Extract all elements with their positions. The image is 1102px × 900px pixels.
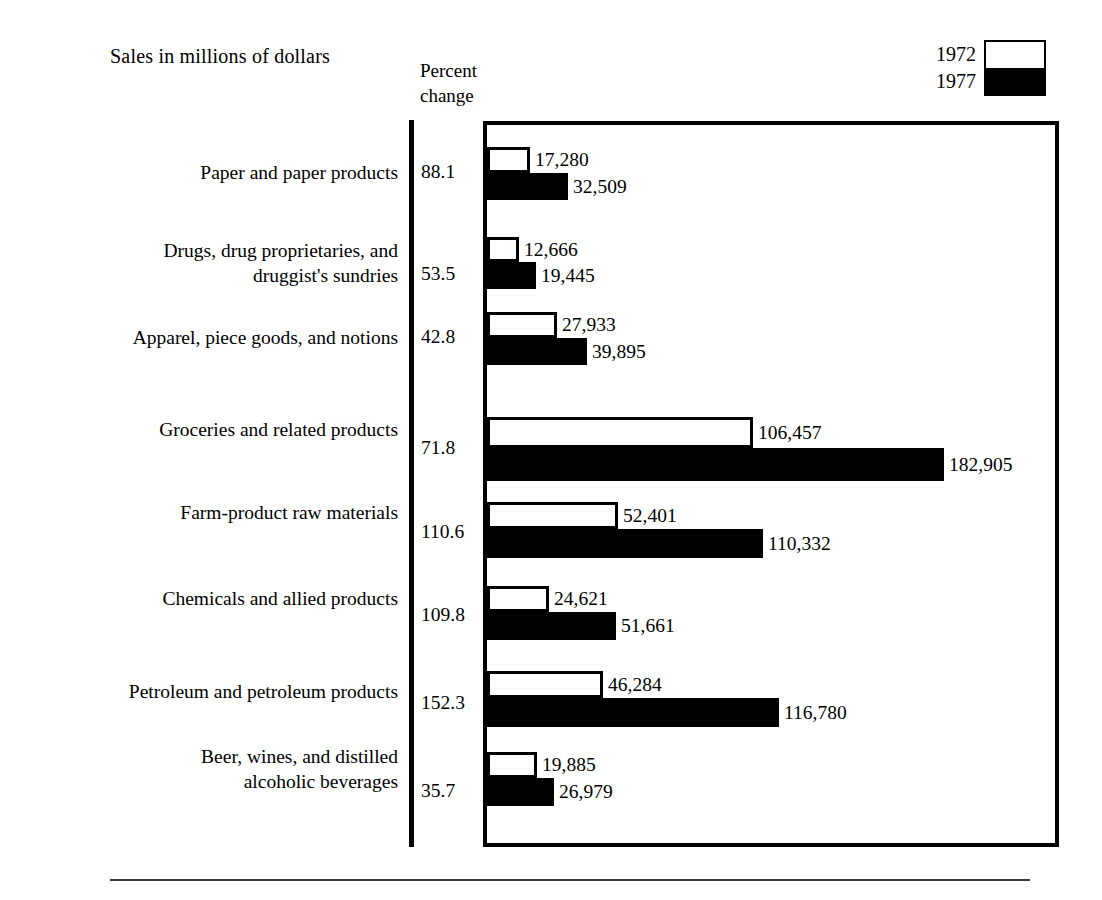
bar-value-label-1977: 32,509 xyxy=(568,177,627,197)
row-category-label: Paper and paper products xyxy=(68,160,398,185)
bar-value-label-1972: 52,401 xyxy=(618,506,677,526)
bar-group-1972: 46,284 xyxy=(487,671,662,698)
bar-group-1977: 51,661 xyxy=(487,612,675,640)
bar-value-label-1972: 106,457 xyxy=(753,423,821,443)
legend-labels: 1972 1977 xyxy=(936,40,984,95)
page-title: Sales in millions of dollars xyxy=(110,45,330,68)
legend-swatch-1977 xyxy=(986,68,1044,94)
bar-value-label-1972: 17,280 xyxy=(530,150,589,170)
bar-1972[interactable] xyxy=(487,417,753,448)
bar-value-label-1972: 27,933 xyxy=(557,315,616,335)
row-category-label: Drugs, drug proprietaries, and druggist'… xyxy=(68,238,398,288)
legend: 1972 1977 xyxy=(936,40,1046,96)
bar-group-1972: 106,457 xyxy=(487,417,821,448)
row-percent-change: 88.1 xyxy=(421,161,481,183)
percent-header-line-1: Percent xyxy=(420,58,477,83)
row-percent-change: 53.5 xyxy=(421,263,481,285)
bar-1972[interactable] xyxy=(487,502,618,529)
bar-1977[interactable] xyxy=(487,529,763,558)
legend-swatches xyxy=(984,40,1046,96)
label-column-divider xyxy=(409,120,414,847)
bar-value-label-1977: 110,332 xyxy=(763,534,831,554)
percent-change-column-header: Percent change xyxy=(420,58,477,108)
footer-rule xyxy=(110,879,1030,881)
bar-value-label-1972: 19,885 xyxy=(537,755,596,775)
bar-1972[interactable] xyxy=(487,671,603,698)
bar-value-label-1972: 46,284 xyxy=(603,675,662,695)
row-category-label: Beer, wines, and distilled alcoholic bev… xyxy=(68,744,398,794)
bar-1972[interactable] xyxy=(487,586,549,612)
bar-1977[interactable] xyxy=(487,612,616,640)
legend-swatch-1972 xyxy=(986,42,1044,68)
bar-1977[interactable] xyxy=(487,448,944,481)
bar-value-label-1977: 116,780 xyxy=(779,703,847,723)
row-category-label: Chemicals and allied products xyxy=(68,586,398,611)
bar-group-1977: 182,905 xyxy=(487,448,1012,481)
row-percent-change: 109.8 xyxy=(421,604,481,626)
row-percent-change: 110.6 xyxy=(421,521,481,543)
bar-group-1972: 17,280 xyxy=(487,147,589,173)
row-category-label: Apparel, piece goods, and notions xyxy=(68,325,398,350)
bar-1977[interactable] xyxy=(487,338,587,365)
bar-group-1977: 116,780 xyxy=(487,698,847,727)
bar-value-label-1972: 12,666 xyxy=(519,240,578,260)
bar-value-label-1977: 39,895 xyxy=(587,342,646,362)
bar-group-1972: 12,666 xyxy=(487,237,578,262)
bar-group-1977: 32,509 xyxy=(487,173,627,200)
bar-group-1977: 19,445 xyxy=(487,262,595,289)
legend-label-1977: 1977 xyxy=(936,68,976,95)
bar-1977[interactable] xyxy=(487,698,779,727)
bar-1977[interactable] xyxy=(487,262,536,289)
row-percent-change: 152.3 xyxy=(421,692,481,714)
bar-group-1977: 110,332 xyxy=(487,529,831,558)
row-category-label: Groceries and related products xyxy=(68,417,398,442)
row-percent-change: 35.7 xyxy=(421,780,481,802)
bar-group-1972: 52,401 xyxy=(487,502,677,529)
bar-1972[interactable] xyxy=(487,752,537,778)
bar-group-1972: 24,621 xyxy=(487,586,608,612)
bar-1972[interactable] xyxy=(487,312,557,338)
bar-value-label-1977: 26,979 xyxy=(554,782,613,802)
row-category-label: Farm-product raw materials xyxy=(68,500,398,525)
bar-1977[interactable] xyxy=(487,173,568,200)
bar-group-1977: 39,895 xyxy=(487,338,646,365)
bar-group-1977: 26,979 xyxy=(487,778,613,806)
legend-label-1972: 1972 xyxy=(936,41,976,68)
bar-value-label-1977: 19,445 xyxy=(536,266,595,286)
row-percent-change: 71.8 xyxy=(421,437,481,459)
bar-1977[interactable] xyxy=(487,778,554,806)
bar-value-label-1977: 182,905 xyxy=(944,455,1012,475)
bar-1972[interactable] xyxy=(487,237,519,262)
row-percent-change: 42.8 xyxy=(421,326,481,348)
plot-frame xyxy=(483,121,1059,847)
bar-group-1972: 27,933 xyxy=(487,312,616,338)
bar-value-label-1977: 51,661 xyxy=(616,616,675,636)
bar-group-1972: 19,885 xyxy=(487,752,596,778)
percent-header-line-2: change xyxy=(420,83,477,108)
row-category-label: Petroleum and petroleum products xyxy=(68,679,398,704)
bar-1972[interactable] xyxy=(487,147,530,173)
bar-value-label-1972: 24,621 xyxy=(549,589,608,609)
